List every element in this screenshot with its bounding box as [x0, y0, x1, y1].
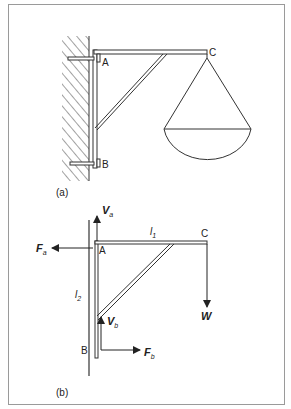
hanging-basket [164, 54, 251, 160]
point-label-c: C [209, 47, 216, 58]
panel-a-caption: (a) [56, 187, 68, 198]
panel-b-caption: (b) [56, 387, 68, 398]
force-label-va: Va [102, 204, 113, 218]
bracket-free-body-diagram: A B C (a) Va Fa W [0, 0, 291, 409]
vertical-bracket [93, 50, 97, 168]
bolt-b-nut [97, 159, 100, 167]
point-label-c: C [201, 228, 208, 239]
vertical-member [95, 241, 98, 358]
bolt-a [68, 57, 94, 60]
point-label-b: B [81, 345, 88, 356]
bolt-b [70, 162, 94, 165]
horizontal-member [95, 241, 207, 244]
force-label-fa: Fa [36, 242, 47, 256]
point-label-b: B [102, 159, 109, 170]
diagonal-member-edge [97, 244, 170, 316]
point-label-a: A [102, 57, 109, 68]
bolt-a-nut [97, 54, 100, 62]
force-label-fb: Fb [144, 346, 155, 360]
point-label-a: A [99, 245, 106, 256]
length-label-l2: l2 [75, 289, 81, 302]
force-label-w: W [201, 310, 213, 322]
length-label-l1: l1 [150, 226, 156, 239]
force-label-vb: Vb [107, 315, 118, 329]
figure-frame [9, 5, 285, 405]
diagonal-member-edge [98, 244, 174, 320]
horizontal-beam [94, 50, 207, 54]
panel-a: A B C (a) [56, 36, 251, 198]
panel-b: Va Fa W Vb Fb A B C l1 l2 (b) [36, 204, 213, 398]
